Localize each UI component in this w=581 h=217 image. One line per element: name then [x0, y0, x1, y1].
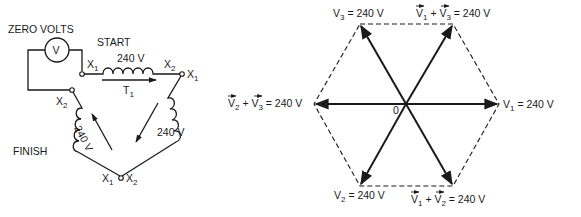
terminal-label-top-coil-end: X2 [164, 58, 176, 73]
svg-text:V1 + V3 = 240 V: V1 + V3 = 240 V [416, 7, 490, 22]
terminal-label-left-mid: X2 [56, 95, 68, 110]
terminal-label-top-left: X1 [87, 58, 99, 73]
label-v2-plus-v3: V2 + V3 = 240 V [228, 96, 302, 112]
start-label: START [97, 36, 131, 48]
vector-v1-plus-v2 [406, 104, 452, 184]
terminal-left-mid [70, 88, 75, 93]
terminal-label-bottom-right: X2 [126, 172, 138, 187]
delta-diagram: ZERO VOLTS V START FINISH 240 V 240 V 24… [0, 0, 581, 217]
terminal-top-left [80, 72, 85, 77]
transformer-label: T1 [123, 84, 134, 99]
voltmeter-symbol: V [53, 44, 60, 56]
label-v2: V2 = 240 V [334, 189, 385, 204]
coil-top-voltage: 240 V [117, 52, 144, 64]
label-v1: V1 = 240 V [503, 98, 554, 113]
terminal-label-bottom-left: X1 [102, 172, 114, 187]
finish-label: FINISH [13, 145, 47, 157]
vector-v3 [361, 26, 406, 104]
voltmeter-wire-right [69, 50, 82, 71]
svg-text:V1 + V2 = 240 V: V1 + V2 = 240 V [411, 193, 485, 208]
zero-volts-label: ZERO VOLTS [8, 23, 74, 35]
origin-label: 0 [393, 104, 399, 116]
vector-v1-plus-v3 [406, 26, 452, 104]
svg-text:V2 + V3 = 240 V: V2 + V3 = 240 V [228, 97, 302, 112]
phasor-diagram: 0 V3 = 240 V V1 + V3 = 240 V V2 + V3 = 2… [228, 6, 554, 208]
voltmeter-wire-left [28, 50, 70, 90]
current-arrow-right [136, 103, 158, 142]
label-v1-plus-v2: V1 + V2 = 240 V [411, 192, 485, 208]
vector-v2 [361, 104, 406, 184]
coil-left-voltage: 240 V [72, 123, 95, 153]
label-v1-plus-v3: V1 + V3 = 240 V [416, 6, 490, 22]
label-v3: V3 = 240 V [333, 7, 384, 22]
delta-circuit: ZERO VOLTS V START FINISH 240 V 240 V 24… [8, 23, 199, 187]
terminal-top-right [180, 72, 185, 77]
terminal-label-top-right: X1 [187, 68, 199, 83]
coil-right-voltage: 240 V [157, 126, 184, 138]
